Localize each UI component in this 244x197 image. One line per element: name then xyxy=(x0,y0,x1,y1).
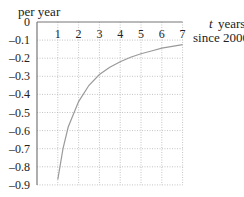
x-tick-label: 2 xyxy=(76,27,82,41)
y-tick-label: –0.4 xyxy=(8,87,30,101)
x-axis-label-line2: since 2000 xyxy=(193,30,244,45)
x-tick-label: 6 xyxy=(159,27,165,41)
y-tick-label: –0.2 xyxy=(8,51,30,65)
x-tick-label: 1 xyxy=(55,27,61,41)
gridlines xyxy=(37,22,183,185)
x-tick-label: 5 xyxy=(138,27,144,41)
y-axis-label: per year xyxy=(18,4,61,19)
line-chart: 12345670–0.1–0.2–0.3–0.4–0.5–0.6–0.7–0.8… xyxy=(0,0,244,197)
x-axis-variable: t xyxy=(209,16,213,31)
y-tick-label: –0.5 xyxy=(8,106,30,120)
x-tick-label: 4 xyxy=(117,27,123,41)
y-tick-label: –0.7 xyxy=(8,142,30,156)
y-tick-label: –0.3 xyxy=(8,69,30,83)
y-tick-label: –0.8 xyxy=(8,160,30,174)
x-tick-label: 7 xyxy=(180,27,186,41)
y-tick-label: –0.9 xyxy=(8,178,30,192)
x-tick-label: 3 xyxy=(96,27,102,41)
tick-labels: 12345670–0.1–0.2–0.3–0.4–0.5–0.6–0.7–0.8… xyxy=(8,15,186,192)
axes xyxy=(37,22,183,185)
y-tick-label: –0.1 xyxy=(8,33,30,47)
y-tick-label: –0.6 xyxy=(8,124,30,138)
x-axis-label-line1: years xyxy=(218,16,244,31)
